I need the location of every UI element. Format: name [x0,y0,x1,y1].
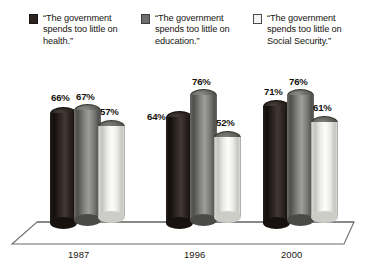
value-label-2000-social-security: 61% [313,102,332,113]
axis-label-1987: 1987 [68,249,89,260]
bar-body [263,106,290,223]
bar-base [214,211,241,223]
legend-item-social-security: “The government spends too little on Soc… [253,13,362,47]
bar-1996-education [190,89,217,220]
value-label-1987-social-security: 57% [100,106,119,117]
bar-base [263,217,290,229]
legend-item-health: “The government spends too little on hea… [29,13,138,47]
bar-1987-health [50,107,77,223]
chart-legend: “The government spends too little on hea… [0,0,370,62]
bar-body [311,122,338,217]
legend-label-education: “The government spends too little on edu… [155,13,250,47]
bars-layer: 66% 67% 57% 64% [0,62,370,275]
chart-root: “The government spends too little on hea… [0,0,370,275]
legend-swatch-social-security-icon [253,14,262,24]
bar-base [166,217,193,229]
value-label-1987-health: 66% [51,92,70,103]
axis-label-1996: 1996 [184,249,205,260]
bar-base [50,217,77,229]
bar-2000-education [287,89,314,220]
bar-1996-social-security [214,131,241,217]
value-label-1996-education: 76% [192,76,211,87]
legend-label-health: “The government spends too little on hea… [43,13,138,47]
legend-item-education: “The government spends too little on edu… [141,13,250,47]
bar-base [287,214,314,226]
value-label-1996-health: 64% [147,111,166,122]
legend-swatch-health-icon [29,14,38,24]
bar-body [214,137,241,217]
bar-body [166,117,193,223]
plot-area: 66% 67% 57% 64% [0,62,370,275]
value-label-1996-social-security: 52% [216,117,235,128]
axis-label-2000: 2000 [281,249,302,260]
bar-base [74,214,101,226]
bar-body [287,95,314,220]
bar-base [190,214,217,226]
bar-2000-social-security [311,116,338,217]
legend-label-social-security: “The government spends too little on Soc… [267,13,362,47]
value-label-1987-education: 67% [76,91,95,102]
legend-swatch-education-icon [141,14,150,24]
bar-body [98,126,125,217]
bar-base [98,211,125,223]
bar-body [50,113,77,223]
bar-body [190,95,217,220]
value-label-2000-education: 76% [289,76,308,87]
bar-body [74,110,101,220]
bar-2000-health [263,100,290,223]
value-label-2000-health: 71% [264,86,283,97]
bar-1987-social-security [98,120,125,217]
bar-1987-education [74,104,101,220]
bar-1996-health [166,111,193,223]
bar-base [311,211,338,223]
